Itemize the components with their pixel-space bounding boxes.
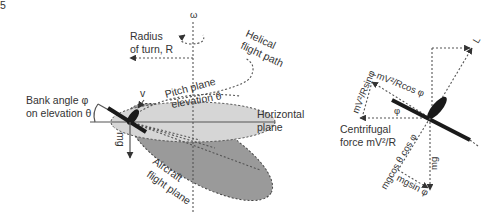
radius-label-line1: Radius xyxy=(130,30,163,42)
aircraft-icon xyxy=(392,94,470,140)
rotation-arrow xyxy=(181,35,204,44)
horizontal-plane-label-line2: plane xyxy=(257,121,283,133)
left-diagram: ω Radius of turn, R Helical flight path … xyxy=(26,9,304,219)
turning-flight-diagram: 5 ω Radius of turn, R Helical flight pat… xyxy=(0,0,504,219)
radius-label-line2: of turn, R xyxy=(130,43,174,55)
omega-label: ω xyxy=(190,9,198,20)
figure-number: 5 xyxy=(0,0,6,11)
bank-angle-label-line2: on elevation θ xyxy=(26,107,92,119)
horizontal-plane-label-line1: Horizontal xyxy=(257,108,304,120)
phi-label: φ xyxy=(394,105,400,116)
centrifugal-label-line1: Centrifugal xyxy=(340,123,391,135)
weight-label: mg xyxy=(115,132,127,147)
mg-label: mg xyxy=(428,157,439,170)
velocity-label: v xyxy=(140,87,146,99)
mgsin-label: mgsin φ xyxy=(395,172,430,198)
bank-angle-label-line1: Bank angle φ xyxy=(26,94,88,106)
sin-component-label: mV²/Rsinφ xyxy=(350,69,377,115)
cos-component-label: mV²/Rcos φ xyxy=(375,70,426,99)
bank-angle-arc xyxy=(94,104,98,122)
right-diagram: L mV²/Rsinφ mV²/Rcos φ φ Centrifugal for… xyxy=(340,35,482,198)
centrifugal-label-line2: force mV²/R xyxy=(340,136,396,148)
lift-label: L xyxy=(470,35,482,45)
